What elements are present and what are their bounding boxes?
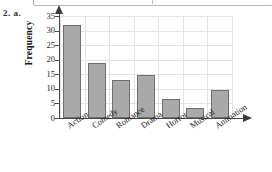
- gridline-vertical: [232, 16, 233, 118]
- gridline-horizontal: [60, 16, 232, 17]
- y-tick-mark: [55, 118, 60, 119]
- gridline-vertical: [207, 16, 208, 118]
- y-tick-label: 30: [39, 26, 55, 35]
- y-axis-line: [59, 12, 60, 118]
- gridline-horizontal: [60, 45, 232, 46]
- y-tick-label: 5: [39, 99, 55, 108]
- y-tick-label-wrap: 15: [32, 70, 55, 79]
- gridline-vertical: [134, 16, 135, 118]
- y-tick-mark: [55, 89, 60, 90]
- y-tick-mark: [55, 45, 60, 46]
- gridline-vertical: [85, 16, 86, 118]
- problem-number: 2. a.: [3, 8, 21, 18]
- y-tick-label-wrap: 25: [32, 41, 55, 50]
- bar-action: [63, 25, 81, 118]
- y-tick-mark: [55, 60, 60, 61]
- gridline-vertical: [109, 16, 110, 118]
- y-tick-label-wrap: 0: [32, 114, 55, 123]
- y-tick-label-wrap: 35: [32, 12, 55, 21]
- y-tick-label: 20: [39, 55, 55, 64]
- y-axis-arrow: [55, 5, 63, 14]
- y-tick-label: 10: [39, 84, 55, 93]
- y-tick-label: 0: [39, 114, 55, 123]
- y-tick-label-wrap: 10: [32, 84, 55, 93]
- gridline-horizontal: [60, 31, 232, 32]
- chart-page: 2. a. Frequency 05101520253035 ActionCom…: [0, 0, 272, 172]
- y-tick-label-wrap: 20: [32, 55, 55, 64]
- cropped-box-divider: [152, 0, 153, 4]
- y-tick-label: 15: [39, 70, 55, 79]
- y-tick-mark: [55, 16, 60, 17]
- gridline-vertical: [60, 16, 61, 118]
- y-tick-label: 35: [39, 12, 55, 21]
- bar-comedy: [88, 63, 106, 118]
- gridline-vertical: [183, 16, 184, 118]
- x-axis-arrow: [243, 114, 252, 122]
- y-tick-mark: [55, 74, 60, 75]
- y-tick-label-wrap: 30: [32, 26, 55, 35]
- y-tick-mark: [55, 31, 60, 32]
- gridline-horizontal: [60, 60, 232, 61]
- y-tick-label: 25: [39, 41, 55, 50]
- y-tick-mark: [55, 103, 60, 104]
- y-tick-label-wrap: 5: [32, 99, 55, 108]
- gridline-vertical: [158, 16, 159, 118]
